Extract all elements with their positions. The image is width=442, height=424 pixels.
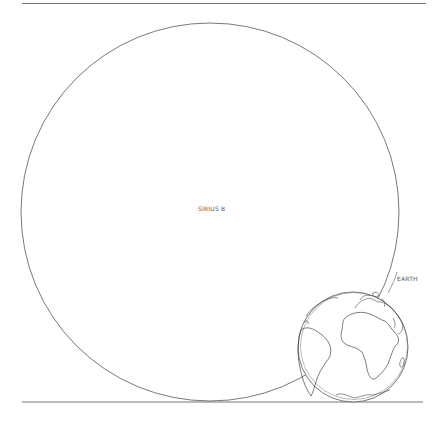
- diagram-canvas: [0, 0, 442, 424]
- earth-globe-icon: [298, 292, 408, 402]
- earth-leader-line: [388, 272, 397, 293]
- sirius-b-label: SIRIUS B: [198, 205, 225, 212]
- earth-label: EARTH: [397, 275, 418, 282]
